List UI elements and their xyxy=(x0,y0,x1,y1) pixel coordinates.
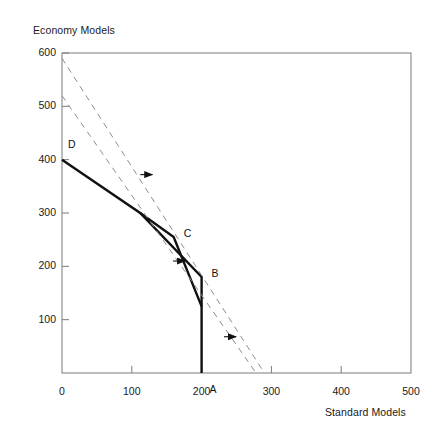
point-label-a: A xyxy=(210,383,217,395)
y-tick-label: 100 xyxy=(22,313,56,325)
y-tick-label: 500 xyxy=(22,99,56,111)
series-expanded-frontier-inner xyxy=(62,96,256,373)
point-label-b: B xyxy=(212,267,219,279)
y-tick-label: 300 xyxy=(22,206,56,218)
x-tick-label: 100 xyxy=(112,385,152,397)
plot-frame xyxy=(62,53,411,373)
x-tick-label: 300 xyxy=(251,385,291,397)
series-current-frontier-upper xyxy=(62,160,202,373)
y-tick-label: 400 xyxy=(22,153,56,165)
series-expanded-frontier-outer xyxy=(62,58,264,373)
point-label-c: C xyxy=(184,227,192,239)
y-tick-label: 200 xyxy=(22,259,56,271)
point-label-d: D xyxy=(68,138,76,150)
x-tick-label: 0 xyxy=(42,385,82,397)
economy-models-chart: Economy Models Standard Models 100200300… xyxy=(0,0,447,435)
x-tick-label: 400 xyxy=(321,385,361,397)
x-tick-label: 500 xyxy=(391,385,431,397)
plot-svg xyxy=(0,0,447,435)
y-tick-label: 600 xyxy=(22,46,56,58)
plot-geometry xyxy=(62,53,411,373)
